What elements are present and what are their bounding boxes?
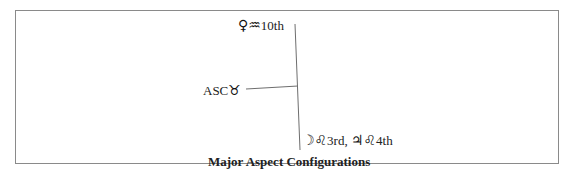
venus-aquarius-icon: ♀♒ (238, 17, 261, 33)
asc-prefix: ASC (203, 83, 228, 98)
node-jupiter-label: 4th (376, 133, 393, 148)
node-asc: ASC♉ (203, 82, 241, 99)
diagram-title: Major Aspect Configurations (208, 154, 370, 170)
aspect-lines (0, 0, 570, 179)
horizontal-aspect-line (246, 86, 298, 89)
node-venus-label: 10th (261, 18, 284, 33)
moon-leo-icon: ☽♌ (302, 132, 327, 148)
taurus-icon: ♉ (228, 82, 241, 98)
jupiter-leo-icon: ♃♌ (351, 132, 376, 148)
vertical-aspect-line (295, 24, 300, 150)
node-moon-jupiter: ☽♌3rd, ♃♌4th (302, 132, 393, 149)
node-moon-label: 3rd, (327, 133, 348, 148)
node-venus: ♀♒10th (238, 17, 284, 34)
